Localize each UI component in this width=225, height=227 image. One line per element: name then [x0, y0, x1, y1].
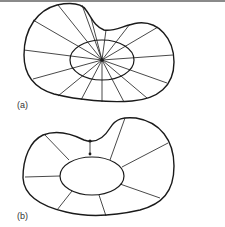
- inner-ellipse-b: [60, 157, 124, 195]
- panel-b: [23, 118, 174, 216]
- panel-label-b: (b): [17, 211, 28, 221]
- diagram-canvas: [0, 0, 225, 227]
- boundary-dot-b: [88, 139, 91, 142]
- radial-segments-b: [25, 118, 168, 216]
- outer-boundary-b: [23, 118, 174, 216]
- panel-a: [24, 4, 174, 102]
- ellipse-dot-b: [89, 153, 92, 156]
- radial-lines-a: [24, 5, 173, 102]
- panel-label-a: (a): [17, 100, 28, 110]
- center-point-a: [100, 58, 104, 62]
